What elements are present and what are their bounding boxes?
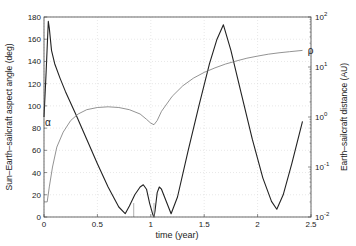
plot-frame	[44, 17, 311, 217]
y-right-tick-label: 100	[315, 111, 328, 122]
y-axis-label-right: Earth–sailcraft distance (AU)	[339, 63, 349, 171]
y-tick-label: 20	[32, 191, 41, 200]
chart: 00.511.522.5 020406080100120140160180 10…	[0, 0, 356, 246]
aspect-angle-line	[44, 21, 303, 217]
x-tick-label: 1	[149, 220, 154, 229]
y-axis-label-left: Sun–Earth–sailcraft aspect angle (deg)	[4, 43, 14, 190]
x-tick-label: 0	[42, 220, 47, 229]
x-axis-ticks: 00.511.522.5	[42, 214, 317, 229]
data-series	[44, 21, 303, 217]
y-tick-label: 60	[32, 146, 41, 155]
y-tick-label: 120	[28, 80, 42, 89]
y-right-tick-label: 101	[315, 61, 328, 72]
series-label: α	[45, 117, 51, 128]
series-annotations: αρ	[45, 45, 314, 128]
x-axis-label: time (year)	[155, 230, 198, 240]
series-label: ρ	[308, 45, 314, 56]
y-tick-label: 40	[32, 169, 41, 178]
grid-lines	[44, 17, 311, 217]
y-right-tick-label: 10-2	[315, 211, 330, 222]
y-right-tick-label: 102	[315, 11, 328, 22]
y-tick-label: 160	[28, 35, 42, 44]
x-tick-label: 0.5	[92, 220, 104, 229]
y-tick-label: 100	[28, 102, 42, 111]
y-tick-label: 140	[28, 57, 42, 66]
y-right-tick-label: 10-1	[315, 161, 330, 172]
y-tick-label: 0	[37, 213, 42, 222]
y-tick-label: 80	[32, 124, 41, 133]
y-tick-label: 180	[28, 13, 42, 22]
x-tick-label: 1.5	[199, 220, 211, 229]
x-tick-label: 2	[255, 220, 260, 229]
